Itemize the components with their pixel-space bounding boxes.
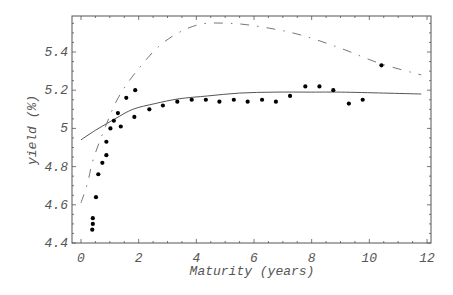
y-tick-label: 5.2 [45,83,69,98]
data-point [119,124,123,128]
solid-curve [81,92,421,140]
data-point [108,126,112,130]
data-point [175,100,179,104]
data-point [91,216,95,220]
data-point [303,84,307,88]
data-point [217,100,221,104]
data-point [116,111,120,115]
data-point [124,96,128,100]
y-tick-label: 4.4 [45,236,69,251]
data-point [104,153,108,157]
data-point [288,94,292,98]
data-point [133,88,137,92]
data-points [90,63,383,231]
dash-dot-curve [81,23,421,203]
data-point [161,103,165,107]
data-point [246,100,250,104]
data-point [379,63,383,67]
plot-frame [72,16,431,243]
data-point [260,98,264,102]
data-point [132,115,136,119]
x-tick-label: 2 [135,251,143,266]
data-point [232,98,236,102]
yield-curve-chart: 024681012 4.44.64.855.25.4 Maturity (yea… [0,0,453,295]
y-tick-label: 4.8 [45,160,69,175]
y-tick-label: 5.4 [45,45,69,60]
data-point [317,84,321,88]
y-tick-labels: 4.44.64.855.25.4 [45,45,69,251]
data-point [94,195,98,199]
data-point [112,119,116,123]
y-tick-label: 5 [60,121,68,136]
x-tick-label: 10 [362,251,378,266]
data-point [361,98,365,102]
x-axis-title: Maturity (years) [190,264,315,279]
data-point [204,98,208,102]
data-point [104,140,108,144]
x-tick-label: 0 [77,251,85,266]
axis-ticks [72,16,431,243]
y-axis-title: yield (%) [25,95,40,166]
data-point [100,161,104,165]
data-point [331,88,335,92]
data-point [274,100,278,104]
data-point [147,107,151,111]
data-point [190,98,194,102]
data-point [347,101,351,105]
fitted-curves [81,23,421,203]
data-point [91,222,95,226]
data-point [90,228,94,232]
data-point [96,172,100,176]
x-tick-label: 12 [419,251,435,266]
y-tick-label: 4.6 [45,198,69,213]
